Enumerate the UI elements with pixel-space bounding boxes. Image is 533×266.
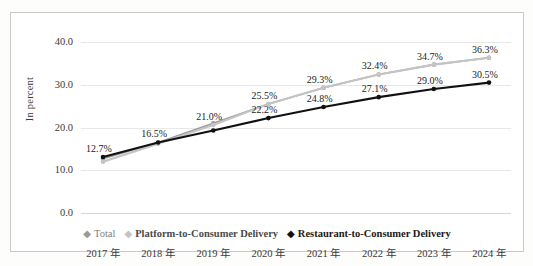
data-point-marker bbox=[266, 116, 271, 121]
data-point-marker bbox=[321, 85, 326, 90]
y-axis-tick-label: 10.0 bbox=[13, 165, 73, 175]
chart-figure: In percent 0.010.020.030.040.0 2017 年201… bbox=[0, 0, 533, 266]
data-point-marker bbox=[376, 72, 381, 77]
x-axis-tick-label: 2021 年 bbox=[307, 245, 341, 260]
x-axis-tick-label: 2024 年 bbox=[472, 245, 506, 260]
legend-item-label: Platform-to-Consumer Delivery bbox=[135, 228, 278, 239]
data-point-marker bbox=[432, 87, 437, 92]
data-point-label: 25.5% bbox=[252, 91, 278, 101]
x-axis-tick-label: 2023 年 bbox=[417, 245, 451, 260]
data-point-label: 21.0% bbox=[196, 112, 222, 122]
data-point-label: 32.4% bbox=[362, 61, 388, 71]
data-point-label: 29.3% bbox=[307, 75, 333, 85]
x-axis-tick-label: 2017 年 bbox=[86, 245, 120, 260]
plot-area: 0.010.020.030.040.0 2017 年2018 年2019 年20… bbox=[81, 42, 511, 213]
data-point-marker bbox=[101, 159, 106, 164]
series-line bbox=[103, 58, 489, 162]
x-axis-tick-label: 2019 年 bbox=[196, 245, 230, 260]
data-point-marker bbox=[432, 62, 437, 67]
y-axis-tick-label: 40.0 bbox=[13, 37, 73, 47]
data-point-label: 12.7% bbox=[86, 144, 112, 154]
legend-item-label: Restaurant-to-Consumer Delivery bbox=[298, 228, 451, 239]
data-point-marker bbox=[156, 140, 161, 145]
x-axis-line bbox=[81, 213, 511, 214]
data-point-marker bbox=[211, 123, 216, 128]
legend-item[interactable]: ◆Total bbox=[83, 228, 115, 239]
data-point-label: 36.3% bbox=[472, 45, 498, 55]
chart-frame: In percent 0.010.020.030.040.0 2017 年201… bbox=[10, 12, 524, 252]
data-point-label: 22.2% bbox=[252, 105, 278, 115]
legend-item[interactable]: ◆Platform-to-Consumer Delivery bbox=[124, 228, 278, 239]
data-point-marker bbox=[376, 95, 381, 100]
data-point-label: 16.5% bbox=[141, 129, 167, 139]
chart-legend: ◆Total◆Platform-to-Consumer Delivery◆Res… bbox=[10, 228, 524, 239]
diamond-marker-icon: ◆ bbox=[287, 229, 295, 239]
diamond-marker-icon: ◆ bbox=[124, 229, 132, 239]
legend-item[interactable]: ◆Restaurant-to-Consumer Delivery bbox=[287, 228, 451, 239]
x-axis-tick-label: 2020 年 bbox=[252, 245, 286, 260]
data-point-label: 29.0% bbox=[417, 76, 443, 86]
data-point-label: 34.7% bbox=[417, 52, 443, 62]
data-point-marker bbox=[211, 128, 216, 133]
y-axis-tick-label: 30.0 bbox=[13, 80, 73, 90]
data-point-label: 27.1% bbox=[362, 84, 388, 94]
legend-item-label: Total bbox=[94, 228, 115, 239]
x-axis-tick-label: 2022 年 bbox=[362, 245, 396, 260]
data-point-marker bbox=[321, 105, 326, 110]
y-axis-tick-label: 20.0 bbox=[13, 123, 73, 133]
series-line bbox=[103, 83, 489, 157]
y-axis-tick-label: 0.0 bbox=[13, 208, 73, 218]
x-axis-tick-label: 2018 年 bbox=[141, 245, 175, 260]
data-point-marker bbox=[101, 155, 106, 160]
data-point-marker bbox=[487, 56, 492, 61]
data-point-marker bbox=[487, 80, 492, 85]
diamond-marker-icon: ◆ bbox=[83, 229, 91, 239]
data-point-label: 30.5% bbox=[472, 70, 498, 80]
data-point-label: 24.8% bbox=[307, 94, 333, 104]
